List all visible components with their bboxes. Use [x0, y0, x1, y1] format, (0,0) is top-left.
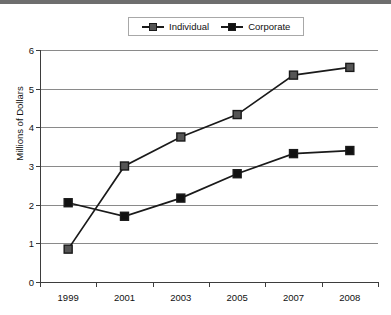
data-point-marker — [177, 133, 185, 141]
data-point-marker — [177, 194, 185, 202]
chart-legend: Individual Corporate — [128, 17, 304, 36]
data-point-marker — [290, 71, 298, 79]
y-axis-tick-label: 0 — [12, 277, 34, 288]
y-axis-tick-label: 4 — [12, 122, 34, 133]
y-axis-tick-mark — [36, 127, 40, 128]
x-axis-tick-mark — [378, 282, 379, 287]
data-point-marker — [233, 170, 241, 178]
x-axis-tick-label: 1999 — [58, 292, 79, 303]
x-axis-tick-mark — [265, 282, 266, 287]
y-axis-tick-mark — [36, 50, 40, 51]
y-axis-tick-mark — [36, 166, 40, 167]
legend-label-corporate: Corporate — [248, 21, 290, 32]
data-point-marker — [121, 212, 129, 220]
y-axis-tick-label: 5 — [12, 83, 34, 94]
y-axis-tick-label: 3 — [12, 161, 34, 172]
x-axis-tick-label: 2001 — [114, 292, 135, 303]
legend-item-individual: Individual — [142, 21, 209, 32]
series-line-individual — [68, 67, 350, 249]
data-point-marker — [64, 245, 72, 253]
x-axis-tick-mark — [153, 282, 154, 287]
y-axis-tick-mark — [36, 243, 40, 244]
data-point-marker — [233, 111, 241, 119]
data-point-marker — [64, 199, 72, 207]
legend-item-corporate: Corporate — [221, 21, 290, 32]
legend-marker-individual-icon — [142, 22, 164, 32]
line-chart-figure: Individual Corporate Millions of Dollars… — [0, 0, 391, 315]
x-axis-tick-label: 2007 — [283, 292, 304, 303]
data-point-marker — [290, 150, 298, 158]
x-axis-tick-mark — [322, 282, 323, 287]
series-line-corporate — [68, 151, 350, 217]
y-axis-tick-mark — [36, 282, 40, 283]
y-axis-tick-label: 2 — [12, 199, 34, 210]
data-point-marker — [346, 147, 354, 155]
legend-marker-corporate-icon — [221, 22, 243, 32]
y-axis-tick-labels: 0123456 — [6, 0, 34, 315]
y-axis-tick-label: 6 — [12, 45, 34, 56]
x-axis-tick-label: 2005 — [227, 292, 248, 303]
x-axis-tick-label: 2008 — [339, 292, 360, 303]
data-point-marker — [346, 63, 354, 71]
data-series-layer — [40, 50, 378, 282]
y-axis-tick-mark — [36, 205, 40, 206]
legend-label-individual: Individual — [169, 21, 209, 32]
x-axis-tick-mark — [40, 282, 41, 287]
data-point-marker — [121, 162, 129, 170]
y-axis-tick-mark — [36, 89, 40, 90]
x-axis-tick-mark — [209, 282, 210, 287]
x-axis-tick-label: 2003 — [170, 292, 191, 303]
y-axis-tick-label: 1 — [12, 238, 34, 249]
x-axis-tick-mark — [96, 282, 97, 287]
